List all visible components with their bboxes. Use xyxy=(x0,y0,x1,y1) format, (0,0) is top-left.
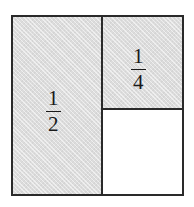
outer-square-border: 1 2 1 4 xyxy=(11,15,184,196)
fraction-numerator: 1 xyxy=(46,88,61,109)
vertical-divider-line xyxy=(101,17,103,194)
fraction-diagram: 1 2 1 4 xyxy=(0,0,194,207)
region-unshaded-quarter xyxy=(101,109,182,194)
horizontal-divider-line xyxy=(101,108,182,110)
fraction-label-one-quarter: 1 4 xyxy=(131,46,146,93)
fraction-numerator: 1 xyxy=(131,46,146,67)
fraction-label-one-half: 1 2 xyxy=(46,88,61,135)
fraction-denominator: 4 xyxy=(131,72,146,93)
fraction-denominator: 2 xyxy=(46,114,61,135)
